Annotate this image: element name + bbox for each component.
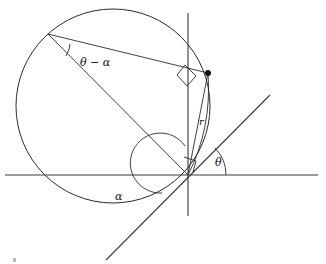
- circle-outline: [16, 9, 210, 203]
- label-alpha: α: [115, 190, 123, 203]
- marked-point-dot: [205, 70, 210, 75]
- label-theta: θ: [215, 156, 222, 169]
- chord-to-origin: [48, 34, 188, 175]
- diagram-canvas: θ − α r θ α: [0, 0, 326, 264]
- label-theta-minus-alpha: θ − α: [80, 56, 111, 69]
- scan-artifact-speck: [13, 258, 16, 262]
- alpha-angle-arc: [130, 133, 185, 193]
- geometry-figure: θ − α r θ α: [0, 0, 326, 264]
- label-radius: r: [199, 116, 205, 127]
